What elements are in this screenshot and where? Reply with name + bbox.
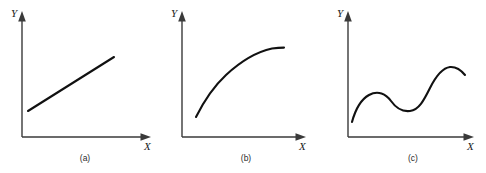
panel-caption-a: (a) bbox=[80, 153, 91, 163]
x-axis-b bbox=[182, 133, 306, 141]
panel-c: Y X (c) bbox=[324, 0, 486, 173]
y-axis-label-c: Y bbox=[337, 7, 345, 19]
y-axis-arrowhead-b bbox=[178, 11, 186, 22]
scatter-relationship-figure: Y X (a) Y X (b) bbox=[0, 0, 486, 173]
panel-a: Y X (a) bbox=[0, 0, 162, 173]
x-axis-c bbox=[348, 133, 474, 141]
x-axis-a bbox=[22, 133, 151, 141]
panel-b: Y X (b) bbox=[160, 0, 322, 173]
x-axis-label-c: X bbox=[466, 140, 475, 152]
y-axis-label-b: Y bbox=[171, 7, 179, 19]
y-axis-arrowhead-c bbox=[344, 11, 352, 22]
panel-caption-c: (c) bbox=[408, 153, 418, 163]
data-curve-b bbox=[196, 48, 284, 117]
data-curve-a bbox=[28, 57, 114, 111]
y-axis-arrowhead-a bbox=[18, 11, 26, 22]
y-axis-b bbox=[178, 11, 186, 137]
y-axis-a bbox=[18, 11, 26, 137]
x-axis-label-a: X bbox=[143, 140, 152, 152]
x-axis-label-b: X bbox=[298, 140, 307, 152]
y-axis-c bbox=[344, 11, 352, 137]
panel-caption-b: (b) bbox=[241, 153, 252, 163]
y-axis-label-a: Y bbox=[11, 7, 19, 19]
data-curve-c bbox=[352, 67, 465, 122]
